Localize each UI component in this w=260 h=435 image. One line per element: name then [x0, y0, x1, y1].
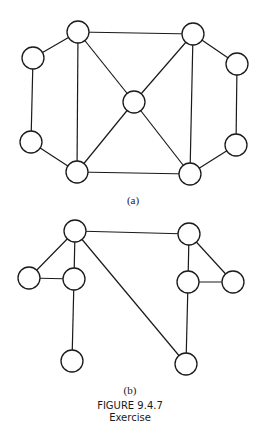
graph-edge [186, 282, 188, 364]
graph-edge [77, 102, 134, 172]
graph-edge [77, 32, 78, 172]
graph-vertex [175, 353, 197, 375]
graph-vertex [226, 53, 248, 75]
graph-edge [236, 64, 237, 145]
figure-subtitle: Exercise [109, 412, 151, 423]
graph-b: (b) [18, 220, 244, 397]
graph-edge [190, 34, 193, 174]
graph-vertex [177, 271, 199, 293]
graph-edge [78, 32, 193, 34]
graph-vertex [61, 350, 83, 372]
graph-vertex [63, 268, 85, 290]
graph-vertex [182, 23, 204, 45]
graph-b-edges [29, 231, 233, 364]
graph-edge [134, 102, 190, 174]
graph-vertex [64, 220, 86, 242]
graph-vertex [225, 134, 247, 156]
graph-vertex [178, 223, 200, 245]
graph-vertex [20, 131, 42, 153]
graph-a-label: (a) [127, 194, 140, 207]
graph-vertex [67, 21, 89, 43]
graph-vertex [179, 163, 201, 185]
graph-vertex [66, 161, 88, 183]
graph-edge [31, 58, 33, 142]
graph-edge [75, 231, 186, 364]
graph-vertex [22, 47, 44, 69]
graph-edge [77, 172, 190, 174]
graph-edge [72, 279, 74, 361]
graph-vertex [123, 91, 145, 113]
graph-vertex [222, 271, 244, 293]
graph-edge [78, 32, 134, 102]
graph-edge [75, 231, 189, 234]
figure-canvas: (a) (b) FIGURE 9.4.7 Exercise [0, 0, 260, 435]
graph-b-label: (b) [124, 384, 137, 397]
figure-title: FIGURE 9.4.7 [97, 400, 163, 411]
graph-a: (a) [20, 21, 248, 207]
graph-edge [134, 34, 193, 102]
graph-vertex [18, 267, 40, 289]
